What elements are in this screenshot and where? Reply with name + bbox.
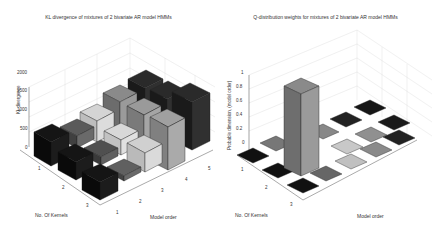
z-tick: 2000 — [17, 70, 27, 75]
kernel-tick: 2 — [265, 185, 268, 190]
order-tick: 5 — [208, 166, 211, 171]
x-axis-label: Model order — [357, 213, 384, 219]
q-distribution-plot-area — [217, 0, 434, 230]
z-tick: 1 — [241, 70, 244, 75]
z-tick: 0.4 — [236, 112, 242, 117]
z-tick: 0.8 — [236, 84, 242, 89]
order-tick: 1 — [116, 210, 119, 215]
kernel-tick: 2 — [62, 185, 65, 190]
kernel-tick: 3 — [86, 203, 89, 208]
z-axis-label: Probable dimension, (model order) — [227, 81, 232, 150]
z-tick: 500 — [20, 126, 28, 131]
kl-divergence-chart: KL divergence of mixtures of 2 bivariate… — [0, 0, 217, 230]
z-tick: 1000 — [17, 107, 27, 112]
y-axis-label: No. Of Kernels — [235, 212, 268, 218]
kl-divergence-plot-area — [0, 0, 217, 230]
y-axis-label: No. Of Kernels — [35, 212, 68, 218]
kernel-tick: 1 — [38, 166, 41, 171]
order-tick: 2 — [139, 199, 142, 204]
z-tick: 0 — [242, 140, 245, 145]
kernel-tick: 3 — [290, 202, 293, 207]
z-tick: 0 — [25, 145, 28, 150]
kernel-tick: 1 — [241, 167, 244, 172]
q-distribution-chart: Q-distribution weights for mixtures of 2… — [217, 0, 434, 230]
order-tick: 3 — [161, 188, 164, 193]
order-tick: 4 — [185, 177, 188, 182]
z-tick: 0.6 — [236, 98, 242, 103]
z-tick: 1500 — [17, 88, 27, 93]
z-tick: 0.2 — [236, 126, 242, 131]
x-axis-label: Model order — [150, 214, 177, 220]
